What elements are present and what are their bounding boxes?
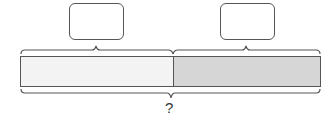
tape-segment-part-1: [20, 56, 175, 87]
top-brace-part-2: [173, 46, 320, 54]
bottom-brace-total: [21, 89, 320, 98]
top-brace-part-1: [21, 46, 173, 54]
total-label: ?: [165, 99, 173, 116]
tape-segment-part-2: [173, 56, 321, 87]
